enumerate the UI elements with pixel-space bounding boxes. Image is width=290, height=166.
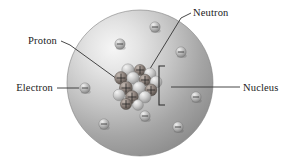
neutron-particle (133, 100, 144, 111)
label-proton: Proton (28, 35, 58, 46)
neutron-sphere (133, 100, 144, 111)
atom-diagram: Proton Electron Neutron Nucleus (0, 0, 290, 166)
diagram-canvas: Proton Electron Neutron Nucleus (0, 0, 290, 166)
label-neutron: Neutron (193, 7, 229, 18)
proton-particle (120, 98, 131, 109)
label-electron: Electron (16, 82, 53, 93)
label-nucleus: Nucleus (243, 82, 278, 93)
